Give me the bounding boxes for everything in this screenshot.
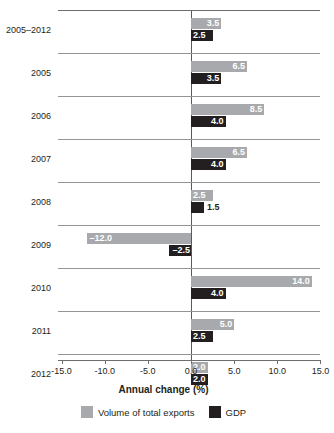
- bar-value-label: 1.5: [207, 202, 231, 213]
- x-axis-tick: [277, 360, 278, 364]
- category-label: 2009: [0, 240, 51, 250]
- x-axis-tick-label: -10.0: [85, 366, 125, 376]
- legend-item-exports: Volume of total exports: [81, 406, 195, 418]
- category-label: 2005: [0, 68, 51, 78]
- category-label: 2007: [0, 154, 51, 164]
- x-axis-tick-label: 5.0: [214, 366, 254, 376]
- bar-value-label: 3.5: [195, 73, 219, 84]
- x-axis-tick-label: -15.0: [42, 366, 82, 376]
- legend-swatch-gdp: [209, 406, 221, 418]
- x-axis-tick-label: 10.0: [257, 366, 297, 376]
- bar-value-label: 5.0: [208, 319, 232, 330]
- category-label: 2006: [0, 111, 51, 121]
- bar-value-label: 2.5: [193, 190, 217, 201]
- x-axis-tick-label: 15.0: [300, 366, 334, 376]
- gridline-top: [58, 10, 320, 11]
- category-label: 2010: [0, 283, 51, 293]
- x-axis-tick: [320, 360, 321, 364]
- category-label: 2005–2012: [0, 25, 51, 35]
- gridline-separator: [58, 53, 320, 54]
- gridline-separator: [58, 96, 320, 97]
- x-axis-tick: [234, 360, 235, 364]
- gridline-separator: [58, 354, 320, 355]
- gridline-separator: [58, 311, 320, 312]
- gridline-separator: [58, 268, 320, 269]
- bar-value-label: 3.5: [195, 18, 219, 29]
- bar-value-label: 14.0: [286, 276, 310, 287]
- gridline-separator: [58, 139, 320, 140]
- plot-area: 2005–20123.52.520056.53.520068.54.020076…: [58, 10, 320, 360]
- bar-value-label: 8.5: [238, 104, 262, 115]
- legend-item-gdp: GDP: [209, 406, 247, 418]
- x-axis-title: Annual change (%): [0, 384, 327, 395]
- gridline-separator: [58, 182, 320, 183]
- x-axis-line: [58, 360, 320, 361]
- category-label: 2011: [0, 326, 51, 336]
- x-axis-tick: [105, 360, 106, 364]
- bar-value-label: 4.0: [200, 116, 224, 127]
- bar-value-label: 2.5: [193, 30, 217, 41]
- legend-swatch-exports: [81, 406, 93, 418]
- x-axis-tick: [148, 360, 149, 364]
- chart-legend: Volume of total exports GDP: [0, 406, 327, 418]
- bar-value-label: –2.5: [166, 245, 190, 256]
- bar-value-label: –12.0: [89, 233, 113, 244]
- x-axis-tick: [191, 360, 192, 364]
- bar-value-label: 6.5: [221, 147, 245, 158]
- x-axis-tick-label: 0.0: [171, 366, 211, 376]
- category-label: 2008: [0, 197, 51, 207]
- bar-value-label: 2.5: [193, 331, 217, 342]
- legend-label-gdp: GDP: [226, 407, 247, 418]
- gridline-separator: [58, 225, 320, 226]
- x-axis-tick-label: -5.0: [128, 366, 168, 376]
- bar-value-label: 4.0: [200, 159, 224, 170]
- x-axis-tick: [62, 360, 63, 364]
- legend-label-exports: Volume of total exports: [98, 407, 195, 418]
- bar-gdp: [191, 202, 204, 213]
- bar-value-label: 4.0: [200, 288, 224, 299]
- bar-value-label: 6.5: [221, 61, 245, 72]
